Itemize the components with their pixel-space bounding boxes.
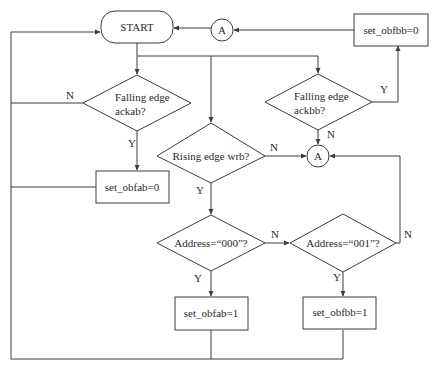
- set-obfab-0-label: set_obfab=0: [105, 181, 160, 193]
- start-terminal: START: [101, 11, 173, 43]
- set-obfbb-0-label: set_obfbb=0: [363, 24, 419, 36]
- decision-falling-edge-ackab: Falling edge ackab?: [83, 75, 191, 131]
- label-addr000-yes: Y: [194, 272, 202, 284]
- edge-left-return: [11, 32, 100, 359]
- ackab-line2: ackab?: [115, 105, 146, 117]
- connector-a-mid-label: A: [314, 150, 322, 162]
- label-ackab-yes: Y: [128, 137, 136, 149]
- label-wrb-no: N: [270, 141, 278, 153]
- edge-bottom-return: [11, 330, 343, 359]
- connector-a-top-label: A: [218, 24, 226, 36]
- label-ackab-no: N: [66, 89, 74, 101]
- decision-address-000: Address=“000”?: [157, 215, 265, 271]
- wrb-label: Rising edge wrb?: [173, 150, 250, 162]
- process-set-obfbb-1: set_obfbb=1: [303, 297, 376, 329]
- decision-falling-edge-ackbb: Falling edge ackbb?: [265, 74, 372, 130]
- start-label: START: [120, 21, 154, 33]
- label-addr001-no: N: [404, 228, 412, 240]
- ackab-line1: Falling edge: [115, 91, 170, 103]
- ackbb-line1: Falling edge: [294, 90, 349, 102]
- process-set-obfbb-0: set_obfbb=0: [354, 14, 428, 46]
- label-addr001-yes: Y: [333, 271, 341, 283]
- label-ackbb-yes: Y: [380, 83, 388, 95]
- label-ackbb-no: N: [327, 128, 335, 140]
- process-set-obfab-1: set_obfab=1: [175, 297, 248, 330]
- label-wrb-yes: Y: [196, 184, 204, 196]
- ackbb-line2: ackbb?: [294, 104, 325, 116]
- process-set-obfab-0: set_obfab=0: [96, 171, 169, 203]
- addr000-label: Address=“000”?: [174, 237, 248, 249]
- connector-a-top: A: [211, 19, 233, 41]
- set-obfab-1-label: set_obfab=1: [184, 307, 238, 319]
- label-addr000-no: N: [271, 228, 279, 240]
- connector-a-mid: A: [307, 145, 329, 167]
- decision-address-001: Address=“001”?: [290, 214, 396, 272]
- addr001-label: Address=“001”?: [306, 237, 380, 249]
- decision-rising-edge-wrb: Rising edge wrb?: [157, 123, 265, 183]
- flowchart-canvas: START A set_obfbb=0 Falling edge ackab? …: [0, 0, 437, 368]
- set-obfbb-1-label: set_obfbb=1: [312, 306, 367, 318]
